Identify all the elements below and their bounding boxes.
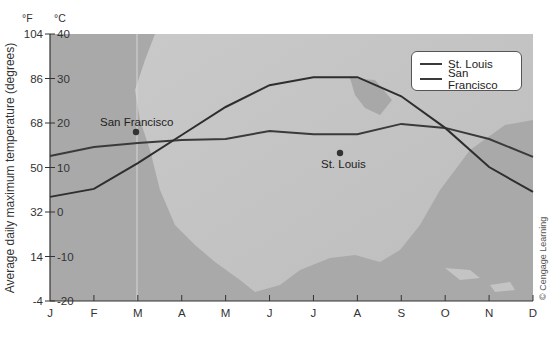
- st-louis-map-label: St. Louis: [321, 158, 366, 170]
- y-tick-label-fahrenheit: 86: [30, 73, 43, 85]
- y-tick-label-fahrenheit: -4: [33, 295, 44, 307]
- legend-swatch-san-francisco: [420, 78, 442, 80]
- x-tick-label: N: [485, 307, 493, 319]
- fahrenheit-unit: °F: [22, 12, 33, 24]
- y-tick-label-fahrenheit: 32: [30, 206, 43, 218]
- x-tick-label: J: [267, 307, 273, 319]
- legend: St. Louis San Francisco: [411, 51, 522, 91]
- celsius-unit: °C: [54, 12, 66, 24]
- y-axis-title: Average daily maximum temperature (degre…: [3, 43, 17, 294]
- y-tick-label-celsius: -20: [57, 295, 74, 307]
- y-tick-label-celsius: 40: [57, 28, 70, 40]
- st-louis-dot: [337, 150, 343, 156]
- x-tick-label: M: [221, 307, 231, 319]
- y-tick-label-fahrenheit: 14: [30, 251, 43, 263]
- x-tick-label: J: [47, 307, 53, 319]
- x-tick-label: F: [90, 307, 97, 319]
- legend-swatch-st-louis: [420, 63, 442, 65]
- x-tick-label: D: [529, 307, 537, 319]
- legend-label-san-francisco: San Francisco: [448, 67, 521, 91]
- y-tick-label-celsius: 0: [57, 206, 63, 218]
- x-tick-label: M: [133, 307, 143, 319]
- y-tick-label-celsius: 10: [57, 162, 70, 174]
- y-tick-label-celsius: 30: [57, 73, 70, 85]
- san-francisco-dot: [133, 129, 139, 135]
- x-tick-label: O: [441, 307, 450, 319]
- x-tick-label: A: [178, 307, 186, 319]
- y-tick-label-celsius: -10: [57, 251, 74, 263]
- y-tick-label-fahrenheit: 68: [30, 117, 43, 129]
- x-tick-label: J: [311, 307, 317, 319]
- y-tick-label-fahrenheit: 50: [30, 162, 43, 174]
- legend-item-san-francisco: San Francisco: [420, 72, 521, 86]
- x-tick-label: S: [397, 307, 405, 319]
- y-tick-label-fahrenheit: 104: [24, 28, 44, 40]
- y-tick-label-celsius: 20: [57, 117, 70, 129]
- san-francisco-map-label: San Francisco: [100, 116, 174, 128]
- credit: © Cengage Learning: [538, 217, 548, 300]
- x-tick-label: A: [354, 307, 362, 319]
